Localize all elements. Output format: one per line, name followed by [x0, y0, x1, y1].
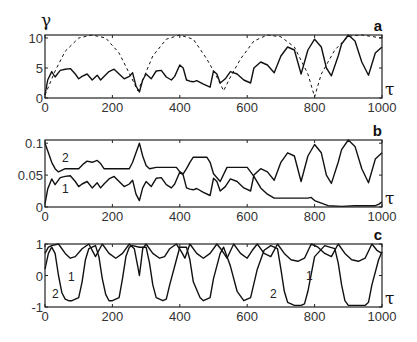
- x-axis-label: τ: [385, 188, 394, 208]
- panel-letter: a: [374, 17, 383, 34]
- curve-label: 1: [62, 182, 69, 196]
- x-tick-label: 800: [304, 209, 326, 224]
- x-tick-label: 400: [169, 209, 191, 224]
- x-tick-label: 400: [169, 100, 191, 115]
- y-tick-label: 5: [36, 61, 43, 76]
- y-tick-label: 0.05: [18, 168, 43, 183]
- x-tick-label: 800: [304, 100, 326, 115]
- x-tick-label: 200: [102, 309, 124, 324]
- curve-label: 2: [270, 287, 277, 301]
- axes-box-c: [45, 244, 382, 307]
- x-tick-label: 600: [236, 209, 258, 224]
- y-tick-label: 0.1: [25, 136, 43, 151]
- curve-label: 1: [68, 270, 75, 284]
- panel-letter: b: [373, 122, 382, 139]
- x-tick-label: 800: [304, 309, 326, 324]
- series-c-1: [45, 244, 382, 276]
- y-tick-label: 0: [36, 200, 43, 215]
- x-axis-label: τ: [385, 288, 394, 308]
- x-tick-label: 400: [169, 309, 191, 324]
- x-tick-label: 200: [102, 209, 124, 224]
- x-tick-label: 1000: [368, 309, 397, 324]
- y-tick-label: 10: [29, 31, 43, 46]
- x-tick-label: 1000: [368, 209, 397, 224]
- curve-label: 2: [62, 151, 69, 165]
- x-tick-label: 200: [102, 100, 124, 115]
- x-tick-label: 600: [236, 100, 258, 115]
- panel-c: 02004006008001000-101cτ1212: [31, 226, 396, 324]
- series-c-2: [45, 246, 382, 306]
- axes-box-a: [45, 35, 382, 98]
- panel-letter: c: [374, 226, 382, 243]
- panel-b: 0200400600800100000.050.1bτ12: [18, 122, 397, 224]
- series-a-solid: [45, 35, 382, 95]
- y-tick-label: 0: [36, 269, 43, 284]
- x-tick-label: 600: [236, 309, 258, 324]
- y-tick-label: 1: [36, 237, 43, 252]
- y-tick-label: -1: [31, 300, 43, 315]
- curve-label: 2: [52, 287, 59, 301]
- x-axis-label: τ: [385, 79, 394, 99]
- y-axis-label: γ: [41, 10, 51, 30]
- curve-label: 1: [306, 269, 313, 283]
- figure: 020040060080010000510aτγ 020040060080010…: [0, 0, 417, 342]
- x-tick-label: 1000: [368, 100, 397, 115]
- series-a-dashed: [45, 35, 382, 97]
- panel-a: 020040060080010000510aτγ: [29, 10, 397, 115]
- y-tick-label: 0: [36, 91, 43, 106]
- series-b-2: [45, 143, 382, 206]
